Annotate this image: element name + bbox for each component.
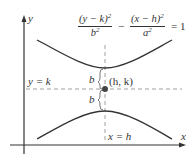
hyperbola-upper-branch [37, 40, 172, 68]
center-point [102, 86, 108, 92]
center-label: (h, k) [109, 76, 133, 87]
exponent: 2 [96, 26, 100, 34]
x-axis-label: x [181, 131, 186, 142]
equation-equals: = 1 [171, 21, 185, 32]
term2-numerator: (x − h) [131, 13, 160, 24]
x-equals-h-label: x = h [108, 131, 131, 142]
hyperbola-lower-branch [37, 111, 172, 139]
y-axis-arrow-icon [22, 15, 27, 22]
b-label-upper: b [89, 74, 95, 85]
brace-lower-b [98, 90, 103, 110]
x-axis-arrow-icon [179, 143, 186, 148]
exponent: 2 [148, 26, 152, 34]
b-label-lower: b [89, 94, 95, 105]
term1-numerator: (y − k) [79, 13, 108, 24]
exponent: 2 [108, 12, 112, 20]
equation-minus: − [118, 21, 124, 32]
equation-term2: (x − h)2 a2 [130, 14, 165, 38]
exponent: 2 [160, 12, 164, 20]
y-axis-label: y [28, 13, 33, 24]
brace-upper-b [98, 69, 103, 89]
equation-term1: (y − k)2 b2 [78, 14, 112, 38]
y-equals-k-label: y = k [28, 76, 51, 87]
